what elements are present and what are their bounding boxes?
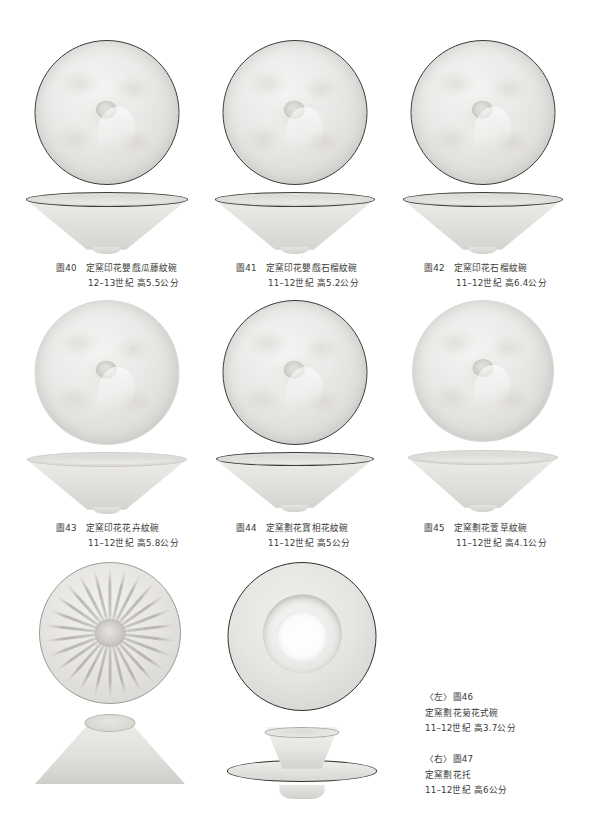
- stand-foot: [280, 785, 325, 799]
- fig44-number: 圖44: [236, 523, 257, 533]
- fig45-profile-view: [408, 450, 558, 512]
- bowl-rim: [27, 452, 187, 467]
- foot-ring: [85, 714, 136, 732]
- figure-plate-fig41: [212, 40, 377, 255]
- caption-fig41: 圖41 定窯印花嬰戲石榴紋碗 11–12世紀 高5.2公分: [236, 261, 359, 290]
- center-aperture: [276, 610, 329, 663]
- fig41-profile-view: [215, 192, 375, 254]
- fig43-top-view: [34, 300, 179, 445]
- bowl-interior: [38, 195, 176, 204]
- fig47-profile-view: [227, 727, 377, 799]
- fig40-profile-view: [26, 192, 188, 254]
- fig42-top-view: [410, 40, 555, 185]
- fig43-detail: 11–12世紀 高5.8公分: [56, 536, 179, 551]
- bowl-rim: [403, 192, 563, 207]
- caption-fig42: 圖42 定窯印花石榴紋碗 11–12世紀 高6.4公分: [424, 261, 547, 290]
- figure-plate-fig40: [24, 40, 189, 255]
- bowl-rim: [26, 192, 188, 207]
- fig40-detail: 12–13世紀 高5.5公分: [56, 276, 179, 291]
- fig46-title: 定窯劃花菊花式碗: [425, 706, 516, 722]
- fig42-detail: 11–12世紀 高6.4公分: [424, 276, 547, 291]
- fig47-number: 圖47: [453, 754, 474, 764]
- fig41-top-view: [222, 40, 367, 185]
- fig44-title: 定窯劃花寶相花紋碗: [266, 523, 349, 533]
- bowl-interior: [39, 455, 175, 464]
- caption-fig44: 圖44 定窯劃花寶相花紋碗 11–12世紀 高5公分: [236, 521, 350, 550]
- bowl-interior: [419, 453, 546, 462]
- fig43-number: 圖43: [56, 523, 77, 533]
- caption-fig47: 〈右〉圖47 定窯劃花托 11–12世紀 高6公分: [425, 752, 507, 799]
- fig46-position-label: 〈左〉: [425, 692, 453, 702]
- fig40-title: 定窯印花嬰戲瓜藤紋碗: [86, 263, 178, 273]
- fig46-detail: 11–12世紀 高3.7公分: [425, 721, 516, 737]
- caption-fig40: 圖40 定窯印花嬰戲瓜藤紋碗 12–13世紀 高5.5公分: [56, 261, 179, 290]
- fig42-number: 圖42: [424, 263, 445, 273]
- fig45-top-view: [412, 300, 554, 442]
- bowl-foot: [281, 505, 308, 512]
- bowl-foot: [93, 247, 121, 254]
- bowl-foot: [281, 247, 308, 254]
- fig47-position-label: 〈右〉: [425, 754, 453, 764]
- figure-plate-fig45: [400, 300, 565, 515]
- fig40-top-view: [34, 40, 179, 185]
- caption-fig46: 〈左〉圖46 定窯劃花菊花式碗 11–12世紀 高3.7公分: [425, 690, 516, 737]
- bowl-foot: [93, 507, 120, 514]
- caption-fig45: 圖45 定窯劃花萱草紋碗 11–12世紀 高4.1公分: [424, 521, 547, 550]
- fig45-detail: 11–12世紀 高4.1公分: [424, 536, 547, 551]
- fig44-detail: 11–12世紀 高5公分: [236, 536, 350, 551]
- fig47-title: 定窯劃花托: [425, 768, 507, 784]
- bowl-rim: [408, 450, 558, 465]
- bowl-interior: [415, 195, 551, 204]
- fig46-profile-view: [35, 714, 185, 784]
- fig46-number: 圖46: [453, 692, 474, 702]
- fig45-title: 定窯劃花萱草紋碗: [454, 523, 528, 533]
- fig43-title: 定窯印花花卉紋碗: [86, 523, 160, 533]
- figure-plate-fig42: [400, 40, 565, 255]
- fig42-profile-view: [403, 192, 563, 254]
- fig46-top-view: [39, 562, 181, 704]
- bowl-foot: [469, 247, 496, 254]
- bowl-rim: [215, 192, 375, 207]
- figure-plate-fig44: [212, 300, 377, 515]
- fig45-number: 圖45: [424, 523, 445, 533]
- catalogue-page: 圖40 定窯印花嬰戲瓜藤紋碗 12–13世紀 高5.5公分 圖41 定窯印花嬰戲…: [0, 0, 589, 838]
- figure-plate-fig46: [30, 562, 190, 802]
- fig47-detail: 11–12世紀 高6公分: [425, 783, 507, 799]
- fig42-title: 定窯印花石榴紋碗: [454, 263, 528, 273]
- figure-plate-fig47: [222, 562, 382, 807]
- caption-fig43: 圖43 定窯印花花卉紋碗 11–12世紀 高5.8公分: [56, 521, 179, 550]
- fig41-title: 定窯印花嬰戲石榴紋碗: [266, 263, 358, 273]
- bowl-foot: [470, 505, 496, 512]
- figure-plate-fig43: [24, 300, 189, 515]
- fig44-profile-view: [216, 452, 374, 512]
- fig47-top-view: [228, 562, 377, 711]
- cone-body: [35, 727, 185, 784]
- fig40-number: 圖40: [56, 263, 77, 273]
- fig41-detail: 11–12世紀 高5.2公分: [236, 276, 359, 291]
- fig44-top-view: [222, 300, 367, 445]
- stand-cup-rim: [265, 727, 340, 738]
- fig41-number: 圖41: [236, 263, 257, 273]
- bowl-interior: [227, 195, 363, 204]
- fig43-profile-view: [27, 452, 187, 514]
- bowl-interior: [227, 455, 361, 464]
